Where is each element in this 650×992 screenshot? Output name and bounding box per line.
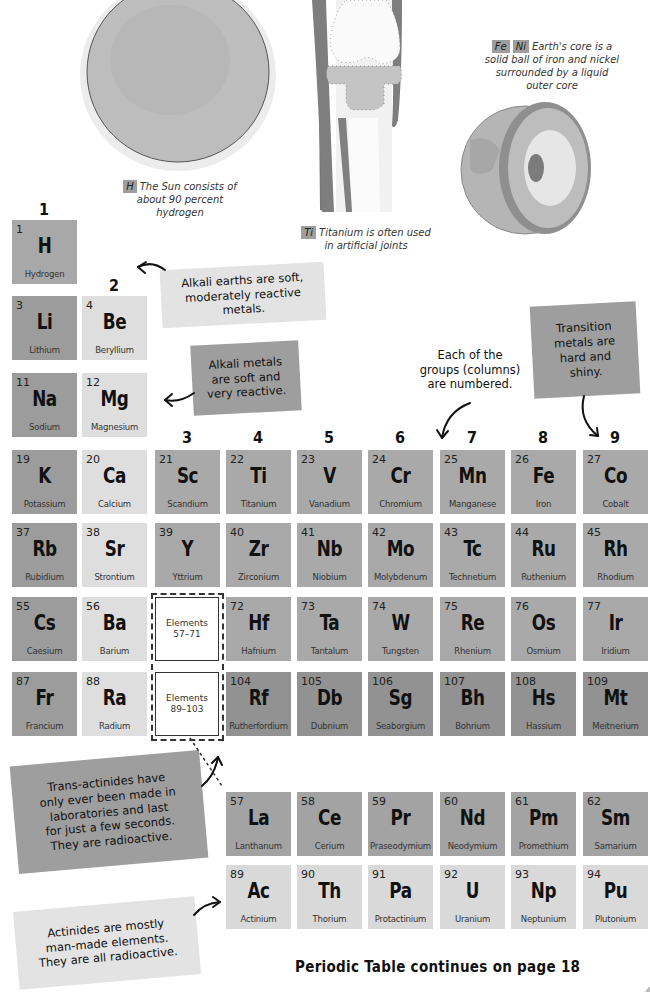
group-number-8: 8: [533, 428, 553, 447]
group-number-4: 4: [248, 428, 268, 447]
element-tantalum: 73 Ta Tantalum: [297, 597, 362, 661]
element-neptunium: 93 Np Neptunium: [511, 865, 576, 929]
element-dubnium: 105 Db Dubnium: [297, 672, 362, 736]
element-lanthanum: 57 La Lanthanum: [226, 792, 291, 856]
element-vanadium: 23 V Vanadium: [297, 450, 362, 514]
group-number-7: 7: [462, 428, 482, 447]
element-magnesium: 12 Mg Magnesium: [82, 373, 147, 437]
note-transition-metals: Transitionmetals arehard andshiny.: [530, 301, 641, 398]
earth-core-illustration: [0, 0, 650, 260]
note-trans-actinides: Trans-actinides haveonly ever been made …: [10, 750, 209, 874]
page-corner-decoration: [638, 978, 650, 992]
element-beryllium: 4 Be Beryllium: [82, 296, 147, 360]
note-groups-numbered: Each of thegroups (columns)are numbered.: [410, 343, 530, 397]
element-hydrogen: 1 H Hydrogen: [12, 220, 77, 284]
element-lithium: 3 Li Lithium: [12, 296, 77, 360]
element-actinium: 89 Ac Actinium: [226, 865, 291, 929]
element-protactinium: 91 Pa Protactinium: [368, 865, 433, 929]
group-number-6: 6: [390, 428, 410, 447]
element-hafnium: 72 Hf Hafnium: [226, 597, 291, 661]
group-number-3: 3: [177, 428, 197, 447]
element-meitnerium: 109 Mt Meitnerium: [583, 672, 648, 736]
group-number-2: 2: [104, 276, 124, 295]
element-samarium: 62 Sm Samarium: [583, 792, 648, 856]
element-scandium: 21 Sc Scandium: [155, 450, 220, 514]
element-tungsten: 74 W Tungsten: [368, 597, 433, 661]
element-caesium: 55 Cs Caesium: [12, 597, 77, 661]
element-barium: 56 Ba Barium: [82, 597, 147, 661]
element-radium: 88 Ra Radium: [82, 672, 147, 736]
element-thorium: 90 Th Thorium: [297, 865, 362, 929]
element-potassium: 19 K Potassium: [12, 450, 77, 514]
element-iron: 26 Fe Iron: [511, 450, 576, 514]
note-actinides: Actinides are mostlyman-made elements.Th…: [13, 896, 201, 990]
element-molybdenum: 42 Mo Molybdenum: [368, 523, 433, 587]
element-yttrium: 39 Y Yttrium: [155, 523, 220, 587]
element-strontium: 38 Sr Strontium: [82, 523, 147, 587]
element-francium: 87 Fr Francium: [12, 672, 77, 736]
placeholder-actinides: Elements89–103: [155, 672, 219, 736]
element-titanium: 22 Ti Titanium: [226, 450, 291, 514]
arrow-icon: [138, 264, 165, 270]
element-rutherfordium: 104 Rf Rutherfordium: [226, 672, 291, 736]
element-zirconium: 40 Zr Zirconium: [226, 523, 291, 587]
element-cobalt: 27 Co Cobalt: [583, 450, 648, 514]
group-number-1: 1: [34, 200, 54, 219]
element-plutonium: 94 Pu Plutonium: [583, 865, 648, 929]
placeholder-lanthanides: Elements57–71: [155, 597, 219, 661]
element-praseodymium: 59 Pr Praseodymium: [368, 792, 433, 856]
element-technetium: 43 Tc Technetium: [440, 523, 505, 587]
element-seaborgium: 106 Sg Seaborgium: [368, 672, 433, 736]
element-manganese: 25 Mn Manganese: [440, 450, 505, 514]
note-alkali-earths: Alkali earths are soft,moderately reacti…: [160, 262, 327, 329]
element-ruthenium: 44 Ru Ruthenium: [511, 523, 576, 587]
continues-on-page-note: Periodic Table continues on page 18: [295, 958, 580, 976]
element-chromium: 24 Cr Chromium: [368, 450, 433, 514]
element-hassium: 108 Hs Hassium: [511, 672, 576, 736]
group-number-9: 9: [605, 428, 625, 447]
element-calcium: 20 Ca Calcium: [82, 450, 147, 514]
element-niobium: 41 Nb Niobium: [297, 523, 362, 587]
group-number-5: 5: [319, 428, 339, 447]
element-cerium: 58 Ce Cerium: [297, 792, 362, 856]
element-neodymium: 60 Nd Neodymium: [440, 792, 505, 856]
element-rhenium: 75 Re Rhenium: [440, 597, 505, 661]
element-osmium: 76 Os Osmium: [511, 597, 576, 661]
element-uranium: 92 U Uranium: [440, 865, 505, 929]
element-bohrium: 107 Bh Bohrium: [440, 672, 505, 736]
element-sodium: 11 Na Sodium: [12, 373, 77, 437]
element-promethium: 61 Pm Promethium: [511, 792, 576, 856]
element-rubidium: 37 Rb Rubidium: [12, 523, 77, 587]
element-rhodium: 45 Rh Rhodium: [583, 523, 648, 587]
element-iridium: 77 Ir Iridium: [583, 597, 648, 661]
note-alkali-metals: Alkali metalsare soft andvery reactive.: [190, 340, 302, 416]
